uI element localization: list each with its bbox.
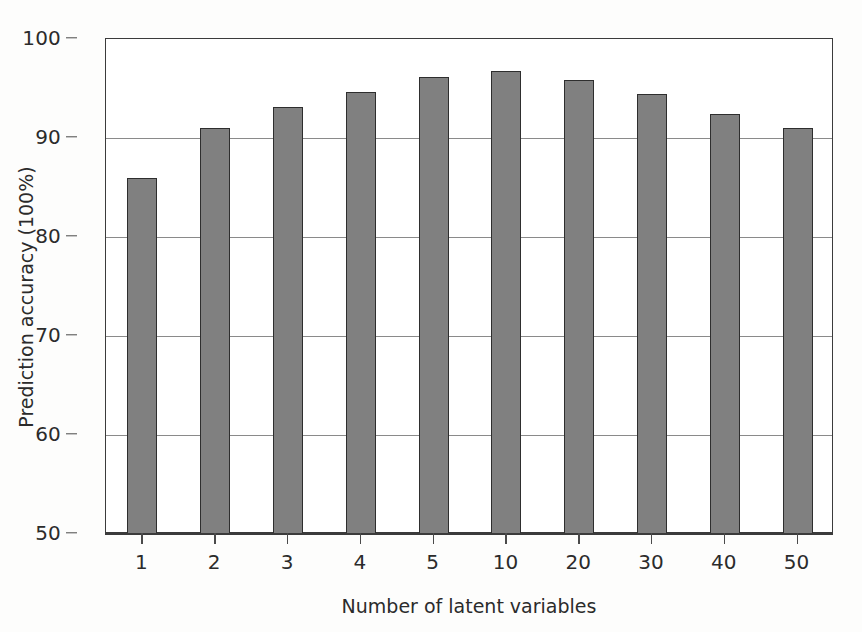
x-tick-label: 50 <box>784 550 809 574</box>
y-tick-mark <box>66 433 77 434</box>
y-tick-label: 100 <box>22 26 61 50</box>
y-tick-mark <box>66 37 77 38</box>
bar <box>491 71 521 534</box>
y-tick-mark <box>66 532 77 533</box>
x-tick-label: 20 <box>565 550 590 574</box>
x-tick-label: 10 <box>493 550 518 574</box>
bar <box>127 178 157 534</box>
x-tick-mark <box>433 533 434 544</box>
x-tick-label: 3 <box>281 550 294 574</box>
x-tick-mark <box>141 533 142 544</box>
x-tick-label: 40 <box>711 550 736 574</box>
x-tick-label: 30 <box>638 550 663 574</box>
y-axis-title: Prediction accuracy (100%) <box>15 87 37 507</box>
y-tick-mark <box>66 136 77 137</box>
bar <box>346 92 376 534</box>
bar <box>783 128 813 534</box>
x-tick-mark <box>651 533 652 544</box>
y-tick-mark <box>66 235 77 236</box>
x-tick-mark <box>505 533 506 544</box>
x-tick-mark <box>578 533 579 544</box>
plot-area <box>105 38 833 533</box>
y-tick-label: 70 <box>35 323 61 347</box>
x-tick-label: 5 <box>426 550 439 574</box>
bar <box>273 107 303 534</box>
x-tick-mark <box>360 533 361 544</box>
x-tick-mark <box>214 533 215 544</box>
bar <box>419 77 449 534</box>
chart-page: 5060708090100 Prediction accuracy (100%)… <box>0 0 862 632</box>
x-tick-label: 4 <box>353 550 366 574</box>
y-tick-label: 50 <box>35 521 61 545</box>
x-tick-mark <box>724 533 725 544</box>
x-tick-label: 1 <box>135 550 148 574</box>
x-axis-title: Number of latent variables <box>105 595 833 617</box>
bar <box>637 94 667 534</box>
bar <box>200 128 230 534</box>
x-tick-label: 2 <box>208 550 221 574</box>
bar <box>710 114 740 534</box>
y-tick-label: 90 <box>35 125 61 149</box>
x-tick-mark <box>797 533 798 544</box>
bar <box>564 80 594 534</box>
y-tick-label: 80 <box>35 224 61 248</box>
y-tick-mark <box>66 334 77 335</box>
y-tick-label: 60 <box>35 422 61 446</box>
x-tick-mark <box>287 533 288 544</box>
